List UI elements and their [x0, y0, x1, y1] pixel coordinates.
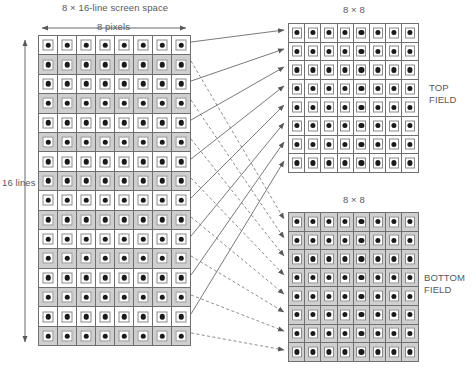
pixel-dot-icon — [375, 160, 380, 165]
pixel-dot-icon — [121, 42, 127, 48]
pixel-square — [356, 46, 366, 57]
pixel-square — [356, 346, 366, 357]
pixel-cell — [370, 325, 386, 344]
pixel-dot-icon — [121, 295, 127, 301]
pixel-dot-icon — [310, 105, 315, 110]
pixel-dot-icon — [140, 139, 146, 145]
pixel-dot-icon — [310, 123, 315, 128]
pixel-square — [389, 272, 399, 283]
pixel-cell — [289, 117, 305, 136]
pixel-cell — [321, 154, 337, 173]
pixel-cell — [153, 327, 172, 346]
pixel-cell — [58, 94, 77, 113]
pixel-cell — [39, 55, 58, 74]
pixel-dot-icon — [294, 349, 299, 354]
pixel-dot-icon — [140, 295, 146, 301]
pixel-cell — [153, 230, 172, 249]
pixel-square — [176, 175, 187, 186]
pixel-dot-icon — [343, 331, 348, 336]
pixel-dot-icon — [407, 49, 412, 54]
pixel-square — [100, 175, 111, 186]
pixel-cell — [402, 61, 418, 80]
pixel-square — [405, 328, 415, 339]
bottom-field-grid-title: 8 × 8 — [343, 194, 365, 205]
pixel-cell — [172, 172, 191, 191]
pixel-cell — [354, 250, 370, 269]
bottom-field-label-line2: FIELD — [424, 284, 465, 296]
pixel-dot-icon — [159, 275, 165, 281]
pixel-cell — [96, 230, 115, 249]
pixel-dot-icon — [140, 314, 146, 320]
pixel-dot-icon — [159, 256, 165, 262]
pixel-dot-icon — [375, 238, 380, 243]
pixel-cell — [338, 287, 354, 306]
pixel-square — [100, 40, 111, 51]
pixel-dot-icon — [375, 219, 380, 224]
pixel-cell — [115, 152, 134, 171]
pixel-square — [43, 272, 54, 283]
pixel-cell — [58, 307, 77, 326]
pixel-cell — [58, 152, 77, 171]
pixel-dot-icon — [140, 101, 146, 107]
pixel-square — [119, 98, 130, 109]
pixel-dot-icon — [407, 331, 412, 336]
pixel-cell — [153, 172, 172, 191]
pixel-dot-icon — [326, 123, 331, 128]
pixel-cell — [115, 230, 134, 249]
pixel-dot-icon — [407, 349, 412, 354]
pixel-cell — [39, 36, 58, 55]
pixel-cell — [153, 152, 172, 171]
pixel-square — [405, 235, 415, 246]
pixel-cell — [77, 249, 96, 268]
pixel-square — [292, 102, 302, 113]
pixel-square — [340, 83, 350, 94]
pixel-cell — [58, 36, 77, 55]
pixel-cell — [172, 327, 191, 346]
pixel-square — [308, 253, 318, 264]
pixel-cell — [289, 287, 305, 306]
pixel-cell — [77, 75, 96, 94]
pixel-cell — [386, 61, 402, 80]
pixel-square — [81, 272, 92, 283]
pixel-cell — [402, 213, 418, 232]
pixel-dot-icon — [121, 139, 127, 145]
pixel-square — [356, 139, 366, 150]
pixel-cell — [39, 133, 58, 152]
pixel-square — [119, 292, 130, 303]
pixel-dot-icon — [294, 49, 299, 54]
pixel-square — [119, 40, 130, 51]
pixel-square — [405, 253, 415, 264]
pixel-cell — [39, 75, 58, 94]
pixel-dot-icon — [64, 275, 70, 281]
pixel-square — [62, 214, 73, 225]
pixel-square — [119, 59, 130, 70]
pixel-cell — [354, 343, 370, 362]
pixel-square — [157, 234, 168, 245]
pixel-square — [292, 346, 302, 357]
pixel-dot-icon — [45, 314, 51, 320]
pixel-cell — [386, 250, 402, 269]
pixel-dot-icon — [359, 123, 364, 128]
pixel-dot-icon — [294, 256, 299, 261]
pixel-square — [100, 234, 111, 245]
pixel-dot-icon — [140, 81, 146, 87]
pixel-dot-icon — [102, 120, 108, 126]
pixel-dot-icon — [375, 294, 380, 299]
pixel-square — [62, 234, 73, 245]
pixel-square — [138, 78, 149, 89]
pixel-cell — [370, 232, 386, 251]
pixel-cell — [305, 250, 321, 269]
pixel-dot-icon — [391, 331, 396, 336]
pixel-square — [340, 253, 350, 264]
pixel-cell — [58, 75, 77, 94]
pixel-cell — [305, 43, 321, 62]
pixel-square — [373, 83, 383, 94]
pixel-cell — [321, 80, 337, 99]
pixel-dot-icon — [159, 120, 165, 126]
pixel-cell — [96, 36, 115, 55]
pixel-square — [356, 27, 366, 38]
pixel-square — [308, 83, 318, 94]
pixel-square — [324, 291, 334, 302]
bottom-field-grid — [288, 212, 419, 362]
bottom-field-connectors — [191, 61, 284, 350]
